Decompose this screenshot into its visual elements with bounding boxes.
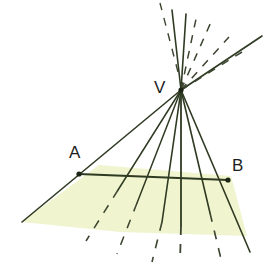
point-a [76, 171, 81, 176]
up-2 [181, 14, 186, 90]
geometry-canvas [0, 0, 267, 265]
point-v [178, 87, 183, 92]
geometry-figure: V A B [0, 0, 267, 265]
point-b [225, 177, 230, 182]
point-label-a: A [69, 144, 80, 161]
up-1 [172, 10, 181, 90]
vertex-label-v: V [154, 79, 165, 96]
point-label-b: B [232, 157, 243, 174]
ray-5-dashed [180, 226, 181, 262]
up-7 [181, 36, 262, 90]
